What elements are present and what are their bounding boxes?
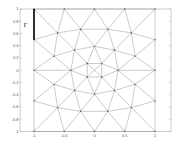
mesh-node (114, 90, 115, 91)
mesh-plot: Γ 10.80.60.40.20-0.2-0.4-0.6-0.8-1 -1-0.… (0, 0, 175, 145)
mesh-edge (131, 84, 135, 107)
y-tick-label: 0.8 (13, 19, 19, 24)
y-tick-label: -0.4 (12, 92, 20, 97)
mesh-node (87, 76, 88, 77)
mesh-edge (81, 94, 95, 111)
mesh-edge (108, 29, 132, 33)
mesh-edge (102, 50, 115, 63)
y-tick-label: -0.8 (12, 117, 20, 122)
mesh-node (134, 55, 135, 56)
mesh-edge (95, 77, 102, 94)
mesh-edge (108, 108, 132, 112)
x-tick-label: -1 (32, 133, 36, 138)
mesh-edge (54, 84, 75, 90)
y-tick-label: -0.2 (12, 80, 20, 85)
x-tick-label: 0 (93, 133, 96, 138)
mesh-node (154, 100, 155, 101)
mesh-edge (135, 40, 155, 57)
mesh-node (154, 8, 155, 9)
mesh-edge (95, 46, 102, 63)
mesh-edge (135, 56, 155, 70)
mesh-edge (71, 50, 75, 70)
mesh-edges (34, 9, 155, 132)
mesh-edge (58, 33, 75, 50)
mesh-edge (95, 29, 108, 46)
x-tick-label: 0.5 (122, 133, 128, 138)
y-tick-label: 0 (16, 68, 19, 73)
mesh-edge (114, 90, 131, 107)
mesh-node (131, 32, 132, 33)
mesh-node (94, 8, 95, 9)
mesh-edge (58, 90, 75, 107)
mesh-node (64, 8, 65, 9)
mesh-node (124, 8, 125, 9)
mesh-edge (34, 108, 58, 132)
mesh-edge (54, 33, 58, 56)
mesh-edge (75, 29, 81, 50)
mesh-edge (114, 33, 131, 50)
mesh-node (134, 84, 135, 85)
mesh-node (154, 39, 155, 40)
mesh-node (74, 49, 75, 50)
mesh-node (101, 63, 102, 64)
mesh-node (80, 111, 81, 112)
mesh-edge (114, 70, 118, 90)
mesh-edge (58, 108, 65, 132)
gamma-label: Γ (23, 21, 27, 29)
mesh-edge (58, 9, 65, 33)
mesh-edge (75, 90, 81, 111)
mesh-node (131, 107, 132, 108)
mesh-edge (131, 33, 135, 56)
mesh-node (154, 70, 155, 71)
mesh-edge (34, 33, 58, 40)
y-tick-label: 0.2 (13, 55, 19, 60)
mesh-edge (102, 70, 118, 77)
mesh-edge (95, 90, 115, 94)
mesh-edge (114, 50, 135, 56)
mesh-edge (64, 111, 80, 131)
mesh-edge (34, 56, 54, 70)
mesh-edge (58, 29, 81, 33)
mesh-node (107, 111, 108, 112)
mesh-edge (75, 50, 88, 63)
mesh-node (53, 84, 54, 85)
mesh-edge (34, 9, 58, 33)
mesh-edge (131, 101, 155, 108)
mesh-edge (125, 108, 132, 132)
mesh-edge (102, 77, 115, 90)
mesh-node (33, 100, 34, 101)
mesh-node (80, 29, 81, 30)
mesh-edge (54, 84, 58, 107)
mesh-edge (95, 94, 108, 111)
mesh-edge (95, 46, 115, 50)
mesh-edge (87, 77, 94, 94)
mesh-node (94, 93, 95, 94)
mesh-edge (54, 70, 71, 84)
mesh-edge (54, 50, 75, 56)
mesh-node (101, 76, 102, 77)
mesh-node (94, 46, 95, 47)
mesh-edge (114, 50, 118, 70)
mesh-edge (131, 9, 155, 33)
mesh-edge (131, 108, 155, 132)
mesh-edge (108, 29, 115, 50)
mesh-edge (131, 33, 155, 40)
mesh-edge (108, 9, 125, 29)
x-tick-label: 1 (154, 133, 157, 138)
mesh-edge (64, 9, 80, 29)
mesh-edge (102, 64, 118, 71)
mesh-edge (71, 64, 87, 71)
mesh-edge (108, 90, 115, 111)
mesh-edge (34, 101, 58, 108)
mesh-edge (75, 77, 88, 90)
mesh-node (114, 49, 115, 50)
mesh-node (74, 90, 75, 91)
mesh-node (57, 107, 58, 108)
mesh-edge (81, 29, 95, 46)
mesh-edge (71, 70, 75, 90)
mesh-edge (34, 84, 54, 101)
mesh-edge (75, 90, 95, 94)
x-axis-ticks: -1-0.500.51 (32, 130, 157, 139)
mesh-node (53, 55, 54, 56)
y-tick-label: 1 (16, 6, 19, 11)
